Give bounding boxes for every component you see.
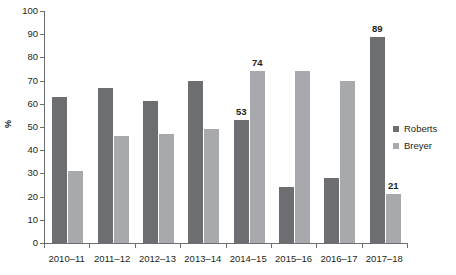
x-axis-tick-label: 2017–18 (366, 253, 403, 265)
x-axis-tick-label: 2016–17 (320, 253, 357, 265)
bar-roberts (324, 178, 339, 243)
y-axis-tick-label: 100 (14, 6, 38, 16)
x-axis-tick-mark (180, 244, 181, 248)
y-axis-tick-label: 40 (14, 145, 38, 155)
y-axis-tick-labels: 0102030405060708090100 (14, 0, 38, 275)
bar-breyer (386, 194, 401, 243)
x-axis-tick-labels: 2010–112011–122012–132013–142014–152015–… (0, 253, 456, 269)
x-axis-tick-mark (44, 244, 45, 248)
bar-group (317, 11, 362, 243)
bar-breyer (340, 81, 355, 243)
y-axis-tick-label: 20 (14, 192, 38, 202)
x-axis-tick-mark (316, 244, 317, 248)
bar-roberts (370, 37, 385, 243)
y-axis-tick-label: 60 (14, 99, 38, 109)
bar-chart: % 0102030405060708090100 53748921 2010–1… (0, 0, 456, 275)
bar-value-label: 53 (236, 106, 247, 117)
bar-breyer (204, 129, 219, 243)
bar-breyer (295, 71, 310, 243)
y-axis-tick-label: 90 (14, 29, 38, 39)
bar-group: 5374 (227, 11, 272, 243)
x-axis-tick-label: 2012–13 (139, 253, 176, 265)
x-axis-tick-label: 2010–11 (49, 253, 85, 265)
y-axis-title: % (3, 117, 13, 131)
x-axis-tick-mark (89, 244, 90, 248)
plot-area: 53748921 (45, 11, 408, 243)
bar-group (272, 11, 317, 243)
bar-roberts (52, 97, 67, 243)
bar-group (45, 11, 90, 243)
bar-roberts (279, 187, 294, 243)
bar-value-label: 21 (388, 180, 399, 191)
x-axis-ticks (0, 244, 456, 249)
y-axis-tick-label: 50 (14, 122, 38, 132)
x-axis-tick-mark (407, 244, 408, 248)
bar-breyer (114, 136, 129, 243)
legend-swatch-icon (393, 143, 399, 149)
y-axis-tick-label: 70 (14, 76, 38, 86)
x-axis-tick-mark (362, 244, 363, 248)
legend-item-breyer[interactable]: Breyer (393, 137, 456, 154)
legend-swatch-icon (393, 126, 399, 132)
bar-value-label: 89 (372, 23, 383, 34)
bar-roberts (188, 81, 203, 243)
x-axis-tick-label: 2015–16 (275, 253, 312, 265)
y-axis-tick-label: 30 (14, 168, 38, 178)
x-axis-tick-label: 2011–12 (94, 253, 130, 265)
bar-breyer (68, 171, 83, 243)
legend-item-roberts[interactable]: Roberts (393, 120, 456, 137)
bar-breyer (250, 71, 265, 243)
bar-group (90, 11, 135, 243)
bar-breyer (159, 134, 174, 243)
x-axis-tick-mark (135, 244, 136, 248)
chart-legend: RobertsBreyer (393, 120, 456, 154)
bar-value-label: 74 (252, 57, 263, 68)
bar-group (136, 11, 181, 243)
x-axis-tick-label: 2014–15 (230, 253, 267, 265)
x-axis-tick-mark (271, 244, 272, 248)
bar-roberts (98, 88, 113, 243)
bar-group (181, 11, 226, 243)
legend-item-label: Breyer (404, 140, 432, 151)
y-axis-tick-label: 80 (14, 52, 38, 62)
y-axis-tick-label: 10 (14, 215, 38, 225)
bar-roberts (234, 120, 249, 243)
x-axis-tick-mark (226, 244, 227, 248)
bar-roberts (143, 101, 158, 243)
x-axis-tick-label: 2013–14 (184, 253, 221, 265)
legend-item-label: Roberts (404, 123, 437, 134)
